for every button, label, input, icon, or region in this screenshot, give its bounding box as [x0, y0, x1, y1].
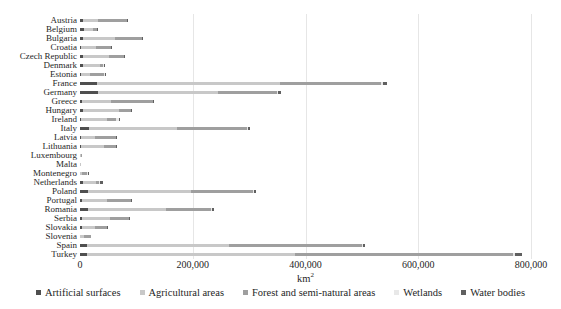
- plot-area: AustriaBelgiumBulgariaCroatiaCzech Repub…: [80, 16, 531, 259]
- stacked-bar: [80, 253, 531, 257]
- bar-segment: [96, 46, 111, 50]
- x-axis-ticks: 0200,000400,000600,000800,000: [80, 259, 531, 271]
- stacked-bar: [80, 73, 531, 77]
- stacked-bar: [80, 118, 531, 122]
- bar-segment: [295, 253, 513, 257]
- bar-row: Poland: [80, 187, 531, 196]
- x-axis-title-text: km: [297, 273, 310, 284]
- bar-segment: [98, 19, 127, 23]
- bar-segment: [280, 82, 381, 86]
- bar-rows: AustriaBelgiumBulgariaCroatiaCzech Repub…: [80, 16, 531, 259]
- bar-segment: [80, 91, 98, 95]
- bar-row: Luxembourg: [80, 151, 531, 160]
- legend-label: Water bodies: [470, 287, 525, 298]
- bar-row: Italy: [80, 124, 531, 133]
- bar-segment: [83, 181, 96, 185]
- bar-segment: [87, 244, 229, 248]
- bar-segment: [254, 190, 257, 194]
- x-tick-label: 0: [78, 259, 83, 270]
- stacked-bar: [80, 127, 531, 131]
- bar-segment: [95, 136, 116, 140]
- bar-row: Bulgaria: [80, 34, 531, 43]
- bar-segment: [83, 19, 98, 23]
- bar-segment: [95, 226, 107, 230]
- stacked-bar: [80, 64, 531, 68]
- bar-segment: [84, 28, 93, 32]
- bar-segment: [88, 190, 192, 194]
- bar-segment: [127, 19, 128, 23]
- x-axis-title-sup: 2: [310, 271, 314, 279]
- bar-segment: [89, 127, 177, 131]
- x-tick-label: 800,000: [515, 259, 548, 270]
- bar-segment: [81, 145, 104, 149]
- legend-label: Forest and semi-natural areas: [252, 287, 375, 298]
- bar-segment: [212, 208, 215, 212]
- legend-item: Wetlands: [394, 287, 442, 298]
- legend-label: Artificial surfaces: [45, 287, 121, 298]
- bar-row: Estonia: [80, 70, 531, 79]
- bar-segment: [80, 127, 89, 131]
- bar-row: Portugal: [80, 196, 531, 205]
- stacked-bar: [80, 190, 531, 194]
- legend-label: Agricultural areas: [149, 287, 225, 298]
- bar-segment: [97, 82, 280, 86]
- bar-segment: [82, 217, 110, 221]
- bar-row: Germany: [80, 88, 531, 97]
- bar-row: Greece: [80, 97, 531, 106]
- bar-segment: [119, 118, 120, 122]
- bar-segment: [105, 73, 106, 77]
- stacked-bar: [80, 226, 531, 230]
- stacked-bar: [80, 136, 531, 140]
- legend-label: Wetlands: [403, 287, 442, 298]
- stacked-bar: [80, 100, 531, 104]
- stacked-bar: [80, 154, 531, 158]
- bar-segment: [109, 55, 124, 59]
- bar-segment: [116, 136, 117, 140]
- bar-segment: [83, 37, 115, 41]
- stacked-bar: [80, 91, 531, 95]
- country-label: Turkey: [0, 250, 77, 259]
- legend-item: Agricultural areas: [140, 287, 225, 298]
- bar-segment: [107, 118, 116, 122]
- bar-segment: [177, 127, 247, 131]
- gridline: [531, 14, 532, 259]
- bar-segment: [82, 100, 111, 104]
- bar-row: France: [80, 79, 531, 88]
- bar-segment: [81, 73, 90, 77]
- bar-segment: [131, 109, 132, 113]
- legend-item: Forest and semi-natural areas: [243, 287, 375, 298]
- bar-segment: [363, 244, 365, 248]
- bar-segment: [81, 136, 95, 140]
- bar-segment: [116, 145, 117, 149]
- bar-segment: [83, 109, 119, 113]
- bar-segment: [131, 199, 132, 203]
- bar-row: Austria: [80, 16, 531, 25]
- bar-segment: [100, 181, 103, 185]
- bar-row: Denmark: [80, 61, 531, 70]
- x-tick-label: 200,000: [177, 259, 210, 270]
- bar-row: Serbia: [80, 214, 531, 223]
- stacked-bar: [80, 46, 531, 50]
- bar-segment: [80, 82, 97, 86]
- stacked-bar: [80, 82, 531, 86]
- x-tick-label: 400,000: [289, 259, 322, 270]
- bar-segment: [104, 145, 116, 149]
- bar-segment: [87, 253, 295, 257]
- bar-segment: [80, 208, 88, 212]
- bar-segment: [110, 217, 129, 221]
- stacked-bar: [80, 199, 531, 203]
- stacked-bar: [80, 235, 531, 239]
- bar-segment: [82, 199, 107, 203]
- bar-row: Malta: [80, 160, 531, 169]
- bar-segment: [191, 190, 253, 194]
- bar-segment: [153, 100, 154, 104]
- legend-swatch: [394, 290, 399, 295]
- x-tick-label: 600,000: [402, 259, 435, 270]
- stacked-bar: [80, 208, 531, 212]
- bar-row: Slovakia: [80, 223, 531, 232]
- legend-item: Water bodies: [461, 287, 525, 298]
- bar-segment: [166, 208, 211, 212]
- bar-segment: [88, 208, 165, 212]
- stacked-bar: [80, 172, 531, 176]
- bar-row: Ireland: [80, 115, 531, 124]
